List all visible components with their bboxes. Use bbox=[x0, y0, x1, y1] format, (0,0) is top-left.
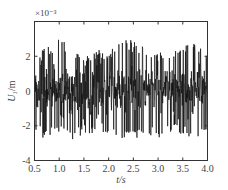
y-tick-label: -4 bbox=[22, 155, 30, 166]
y-tick-label: 2 bbox=[26, 51, 31, 62]
x-tick-label: 1.0 bbox=[53, 163, 66, 174]
signal-trace bbox=[35, 40, 208, 139]
x-tick-label: 2.0 bbox=[102, 163, 115, 174]
y-tick-label: -2 bbox=[22, 120, 30, 131]
y-axis-label: U1/m bbox=[6, 80, 19, 102]
x-tick-label: 3.0 bbox=[152, 163, 165, 174]
signal-line bbox=[35, 40, 208, 139]
x-tick-label: 1.5 bbox=[78, 163, 91, 174]
x-tick-label: 2.5 bbox=[127, 163, 140, 174]
y-tick-label: 0 bbox=[26, 86, 31, 97]
x-axis-label: t/s bbox=[116, 174, 126, 185]
y-axis-multiplier: ×10⁻³ bbox=[35, 8, 57, 18]
time-series-chart: 0.51.01.52.02.53.03.54.0 -4-202 ×10⁻³ t/… bbox=[0, 0, 228, 190]
x-tick-label: 3.5 bbox=[177, 163, 190, 174]
x-tick-label: 4.0 bbox=[201, 163, 214, 174]
